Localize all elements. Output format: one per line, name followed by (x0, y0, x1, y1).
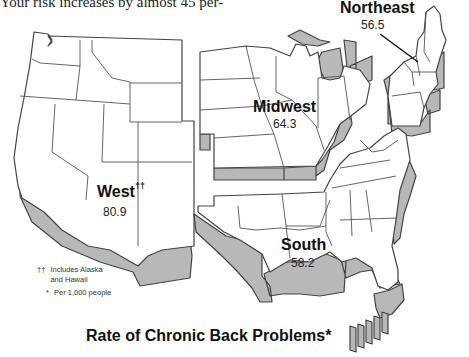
region-label-west: West†† (97, 183, 145, 201)
florida-keys (350, 312, 388, 352)
region-value-midwest: 64.3 (273, 117, 296, 131)
region-value-west: 80.9 (103, 205, 126, 219)
footnote-alaska-hawaii: †† Includes Alaska and Hawaii (37, 265, 103, 285)
region-label-northeast: Northeast (340, 0, 415, 17)
footnote-text: Per 1,000 people (54, 288, 111, 297)
us-region-map (0, 0, 469, 357)
region-label-south: South (281, 236, 326, 254)
region-footnote-marker: †† (135, 181, 145, 191)
footnote-per-1000: * Per 1,000 people (46, 288, 111, 298)
region-west-shape (14, 32, 194, 286)
region-name-west: West (97, 183, 135, 200)
northeast-leader-line (380, 34, 418, 62)
footnote-symbol: * (46, 288, 49, 297)
footnote-text: Includes Alaska (50, 265, 102, 274)
region-northeast-shape (380, 6, 446, 136)
region-label-midwest: Midwest (253, 98, 316, 116)
footnote-text: and Hawaii (50, 275, 87, 284)
footnote-symbol: †† (37, 265, 45, 274)
region-value-south: 58.2 (291, 256, 314, 270)
map-title: Rate of Chronic Back Problems* (86, 327, 331, 345)
region-value-northeast: 56.5 (361, 18, 384, 32)
